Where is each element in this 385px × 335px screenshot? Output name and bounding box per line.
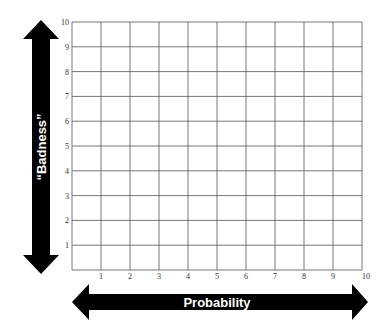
y-tick-label: 1 <box>65 241 69 250</box>
x-tick-label: 2 <box>128 272 132 281</box>
x-tick-label: 9 <box>331 272 335 281</box>
y-tick-label: 5 <box>65 142 69 151</box>
y-tick-label: 4 <box>65 167 69 176</box>
y-tick-label: 3 <box>65 192 69 201</box>
x-tick-label: 10 <box>362 272 370 281</box>
y-tick-label: 10 <box>61 18 69 27</box>
x-tick-label: 5 <box>215 272 219 281</box>
risk-grid-diagram: 12345678910 12345678910 “Badness” Probab… <box>0 0 385 335</box>
badness-double-arrow-icon: “Badness” <box>23 20 59 274</box>
y-tick-label: 7 <box>65 92 69 101</box>
y-tick-label: 9 <box>65 43 69 52</box>
x-tick-label: 4 <box>186 272 190 281</box>
x-tick-label: 3 <box>157 272 161 281</box>
x-tick-label: 6 <box>244 272 248 281</box>
y-tick-label: 6 <box>65 117 69 126</box>
y-tick-label: 2 <box>65 216 69 225</box>
x-tick-label: 1 <box>99 272 103 281</box>
y-tick-label: 8 <box>65 68 69 77</box>
y-axis-label: “Badness” <box>34 113 49 180</box>
y-axis-ticks: 12345678910 <box>61 18 69 250</box>
grid <box>72 22 362 270</box>
x-tick-label: 8 <box>302 272 306 281</box>
x-tick-label: 7 <box>273 272 277 281</box>
x-axis-ticks: 12345678910 <box>99 272 370 281</box>
probability-double-arrow-icon: Probability <box>72 284 368 320</box>
x-axis-label: Probability <box>183 295 251 310</box>
